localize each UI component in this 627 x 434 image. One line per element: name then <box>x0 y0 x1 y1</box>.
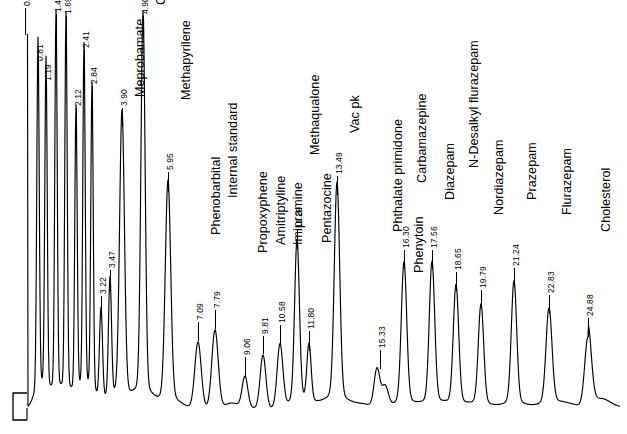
peak-leader-tick <box>66 16 67 37</box>
peak-retention-time: 11.29 <box>294 207 304 228</box>
peak-leader-tick <box>432 250 433 269</box>
peak-retention-time: 16.30 <box>401 226 411 248</box>
peak-leader-tick <box>76 108 77 127</box>
peak-compound-name: Vac pk <box>348 95 362 133</box>
peak-retention-time: 2.41 <box>81 31 91 48</box>
peak-compound-name: Pentazocine <box>320 173 334 243</box>
peak-compound-name: Carbamazepine <box>415 93 429 183</box>
peak-retention-time: 0.81 <box>35 44 45 61</box>
peak-compound-name: Phenobarbital <box>209 157 223 235</box>
peak-leader-tick <box>380 350 381 369</box>
peak-leader-tick <box>56 14 57 35</box>
peak-compound-name: Cholesterol <box>599 168 613 232</box>
peak-retention-time: 3.22 <box>98 277 108 294</box>
peak-compound-name: Nordiazepam <box>492 140 506 215</box>
peak-leader-tick <box>245 357 246 376</box>
peak-compound-name: N-Desalkyl flurazepam <box>467 40 481 168</box>
peak-retention-time: 21.24 <box>511 244 521 266</box>
peak-compound-name: Caffeine <box>154 0 168 5</box>
peak-leader-tick <box>110 270 111 291</box>
peak-leader-tick <box>25 8 26 35</box>
peak-compound-name: Amitriptyline <box>274 176 288 245</box>
peak-compound-name: Prazepam <box>525 142 539 200</box>
peak-retention-time: 5.95 <box>165 153 175 170</box>
peak-retention-time: 13.49 <box>334 152 344 174</box>
chromatogram-trace <box>0 0 627 434</box>
peak-leader-tick <box>337 176 338 195</box>
peak-retention-time: 1.42 <box>53 0 63 12</box>
peak-leader-tick <box>215 310 216 329</box>
peak-retention-time: 11.80 <box>306 308 316 329</box>
peak-retention-time: 10.58 <box>277 301 287 323</box>
peak-leader-tick <box>168 172 169 192</box>
peak-compound-name: Meprobamate <box>133 19 147 97</box>
peak-leader-tick <box>92 86 93 105</box>
peak-retention-time: 15.33 <box>377 326 387 348</box>
peak-leader-tick <box>122 108 123 127</box>
peak-leader-tick <box>101 296 102 317</box>
peak-leader-tick <box>143 16 144 35</box>
peak-compound-name: Methaqualone <box>308 75 322 155</box>
peak-leader-tick <box>404 250 405 269</box>
peak-leader-tick <box>514 268 515 287</box>
peak-compound-name: Phthalate primidone <box>391 119 405 232</box>
peak-leader-tick <box>84 50 85 69</box>
peak-leader-tick <box>456 272 457 291</box>
peak-compound-name: Diazepam <box>443 143 457 200</box>
peak-compound-name: Flurazepam <box>560 148 574 215</box>
peak-compound-name: Phenytoin <box>412 217 426 274</box>
peak-retention-time: 7.79 <box>212 291 222 308</box>
peak-leader-tick <box>198 322 199 341</box>
peak-leader-tick <box>549 295 550 314</box>
peak-retention-time: 22.83 <box>546 271 556 293</box>
peak-retention-time: 1.19 <box>43 64 53 81</box>
peak-retention-time: 24.88 <box>585 294 595 316</box>
peak-compound-name: Propoxyphene <box>256 171 270 253</box>
peak-compound-name: Methapyrilene <box>179 20 193 100</box>
peak-retention-time: 9.06 <box>242 338 252 355</box>
axis-corner-marker <box>13 393 27 420</box>
peak-retention-time: 17.56 <box>429 226 439 248</box>
peak-retention-time: 4.90 <box>140 0 150 14</box>
peak-compound-name: Internal standard <box>226 102 240 198</box>
peak-leader-tick <box>263 336 264 354</box>
peak-retention-time: 3.47 <box>107 251 117 268</box>
peak-retention-time: 19.79 <box>478 266 488 288</box>
peak-retention-time: 18.65 <box>453 248 463 270</box>
peak-retention-time: 1.69 <box>63 0 73 14</box>
peak-leader-tick <box>481 290 482 309</box>
peak-leader-tick <box>309 331 310 351</box>
peak-leader-tick <box>280 325 281 344</box>
chromatogram-figure: 0.270.811.191.421.692.122.412.843.223.47… <box>0 0 627 434</box>
peak-leader-tick <box>297 230 298 249</box>
peak-retention-time: 3.90 <box>119 89 129 106</box>
peak-retention-time: 0.27 <box>22 0 32 6</box>
peak-leader-tick <box>588 318 589 337</box>
peak-retention-time: 7.09 <box>195 303 205 320</box>
peak-retention-time: 2.84 <box>89 67 99 84</box>
peak-retention-time: 9.81 <box>260 317 270 334</box>
peak-retention-time: 2.12 <box>73 89 83 106</box>
